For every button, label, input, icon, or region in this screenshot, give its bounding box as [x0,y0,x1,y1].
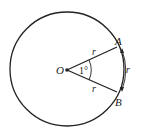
circle-radian-diagram: O 1° A B r r r [0,0,142,127]
angle-arc [89,60,91,80]
label-o: O [56,64,64,76]
label-r-top: r [92,46,96,57]
center-point [65,68,69,72]
label-r-bottom: r [92,83,96,94]
label-angle: 1° [79,65,88,76]
label-r-arc: r [126,64,130,75]
label-a: A [114,35,122,47]
label-b: B [115,96,122,108]
